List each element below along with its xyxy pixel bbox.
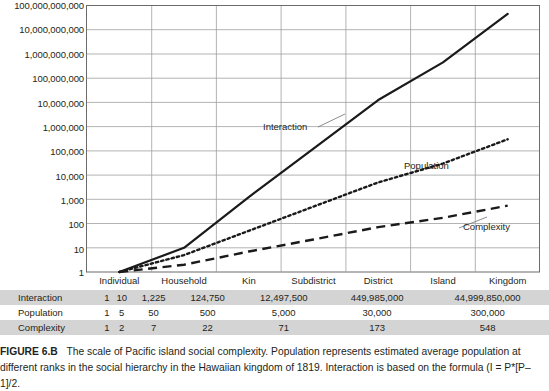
annotation-complexity: Complexity [463, 221, 510, 232]
table-cell: 44,999,850,000 [426, 290, 549, 305]
figure-chart: 100,000,000,000 10,000,000,000 1,000,000… [0, 0, 549, 272]
figure-number: FIGURE 6.B [0, 346, 58, 357]
x-axis-tick-label: Kin [242, 275, 256, 286]
table-cell: 12,497,500 [240, 290, 328, 305]
table-cell: 173 [328, 320, 426, 335]
figure-caption: FIGURE 6.B The scale of Pacific island s… [0, 344, 540, 391]
table-row-label: Complexity [0, 320, 102, 335]
table-cell: 10 [112, 290, 132, 305]
x-axis-tick-label: Subdistrict [291, 275, 335, 286]
table-row-label: Population [0, 305, 102, 320]
table-cell: 1,225 [132, 290, 176, 305]
data-table: Interaction 1 10 1,225 124,750 12,497,50… [0, 290, 549, 335]
table-row: Population 1 5 50 500 5,000 30,000 300,0… [0, 305, 549, 320]
table-cell: 2 [112, 320, 132, 335]
x-axis-tick-label: Household [161, 275, 206, 286]
plot-frame [87, 6, 540, 273]
table-cell: 7 [132, 320, 176, 335]
table-cell: 300,000 [426, 305, 549, 320]
table-cell: 500 [176, 305, 240, 320]
table-cell: 1 [102, 320, 112, 335]
table-cell: 124,750 [176, 290, 240, 305]
x-axis-tick-label: District [364, 275, 393, 286]
annotation-interaction: Interaction [263, 121, 307, 132]
table-row-label: Interaction [0, 290, 102, 305]
x-axis-tick-label: Individual [99, 275, 139, 286]
table-cell: 71 [240, 320, 328, 335]
annotation-population: Population [404, 160, 449, 171]
chart-plot-area [0, 0, 549, 274]
x-axis-tick-label: Island [430, 275, 455, 286]
table-cell: 548 [426, 320, 549, 335]
table-cell: 1 [102, 290, 112, 305]
table-row: Interaction 1 10 1,225 124,750 12,497,50… [0, 290, 549, 305]
table-row: Complexity 1 2 7 22 71 173 548 [0, 320, 549, 335]
table-cell: 1 [102, 305, 112, 320]
x-axis-label-group: Individual Household Kin Subdistrict Dis… [0, 273, 549, 290]
table-cell: 5,000 [240, 305, 328, 320]
table-cell: 30,000 [328, 305, 426, 320]
table-cell: 449,985,000 [328, 290, 426, 305]
x-axis-tick-label: Kingdom [489, 275, 527, 286]
figure-caption-text: The scale of Pacific island social compl… [0, 346, 531, 389]
table-cell: 5 [112, 305, 132, 320]
table-cell: 22 [176, 320, 240, 335]
table-cell: 50 [132, 305, 176, 320]
